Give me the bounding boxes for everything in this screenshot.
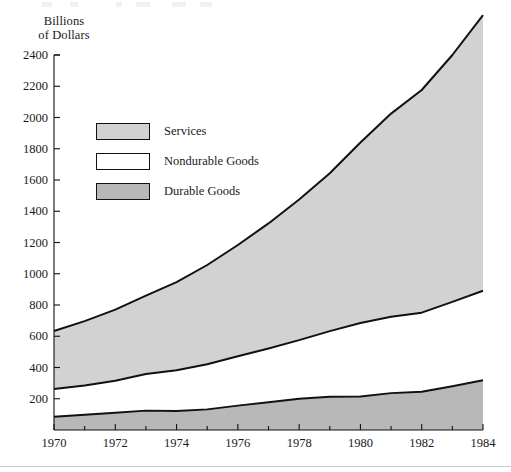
- y-tick-label: 2400: [4, 49, 48, 61]
- plot-area: [0, 0, 511, 472]
- x-tick-label: 1974: [154, 437, 200, 449]
- y-tick-label: 400: [4, 362, 48, 374]
- legend-item[interactable]: Nondurable Goods: [96, 146, 259, 176]
- y-tick-label: 1600: [4, 174, 48, 186]
- x-tick-label: 1978: [276, 437, 322, 449]
- y-tick-label: 800: [4, 299, 48, 311]
- chart-legend: ServicesNondurable GoodsDurable Goods: [96, 116, 259, 206]
- y-tick-label: 2000: [4, 112, 48, 124]
- y-tick-label: 1200: [4, 237, 48, 249]
- y-tick-label: 1800: [4, 143, 48, 155]
- y-tick-label: 1400: [4, 205, 48, 217]
- legend-label: Durable Goods: [164, 184, 240, 199]
- x-tick-label: 1982: [399, 437, 445, 449]
- legend-item[interactable]: Services: [96, 116, 259, 146]
- x-tick-label: 1976: [215, 437, 261, 449]
- legend-item[interactable]: Durable Goods: [96, 176, 259, 206]
- legend-swatch: [96, 123, 150, 140]
- x-tick-label: 1980: [337, 437, 383, 449]
- legend-label: Services: [164, 124, 206, 139]
- chart-container: Billions of Dollars 20040060080010001200…: [0, 0, 511, 472]
- x-tick-label: 1972: [92, 437, 138, 449]
- x-tick-label: 1970: [31, 437, 77, 449]
- y-tick-label: 1000: [4, 268, 48, 280]
- y-tick-label: 200: [4, 393, 48, 405]
- x-tick-label: 1984: [460, 437, 506, 449]
- page-rule: [0, 466, 511, 467]
- y-tick-label: 600: [4, 330, 48, 342]
- legend-label: Nondurable Goods: [164, 154, 259, 169]
- y-tick-label: 2200: [4, 80, 48, 92]
- legend-swatch: [96, 153, 150, 170]
- legend-swatch: [96, 183, 150, 200]
